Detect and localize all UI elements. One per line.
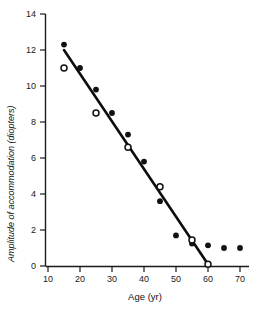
x-tick-labels: 10 20 30 40 50 60 70: [43, 274, 245, 284]
x-axis-title: Age (yr): [128, 291, 162, 302]
data-point-filled: [109, 110, 115, 116]
x-tick-label-10: 10: [43, 274, 53, 284]
x-tick-label-50: 50: [171, 274, 181, 284]
data-point-filled: [205, 242, 211, 248]
x-tick-label-30: 30: [107, 274, 117, 284]
data-point-filled: [77, 65, 83, 71]
y-tick-label-14: 14: [26, 9, 36, 19]
data-point-filled: [61, 42, 67, 48]
y-axis: 0 2 4 6 8 10 12 14: [26, 9, 46, 271]
y-tick-label-0: 0: [31, 261, 36, 271]
y-axis-title-group: Amplitude of accommodation (diopters): [6, 105, 16, 263]
accommodation-amplitude-chart: Amplitude of accommodation (diopters) 0 …: [0, 0, 261, 309]
y-tick-label-8: 8: [31, 117, 36, 127]
y-tick-label-10: 10: [26, 81, 36, 91]
y-tick-label-12: 12: [26, 45, 36, 55]
data-point-open: [125, 144, 131, 150]
x-tick-label-60: 60: [203, 274, 213, 284]
y-tick-label-4: 4: [31, 189, 36, 199]
y-tick-marks: [40, 14, 46, 266]
x-tick-marks: [48, 267, 240, 273]
y-axis-title: Amplitude of accommodation (diopters): [6, 105, 16, 263]
x-tick-label-70: 70: [235, 274, 245, 284]
data-point-filled: [237, 245, 243, 251]
plot-data-layer: [61, 42, 243, 268]
data-point-open: [61, 65, 67, 71]
data-point-filled: [173, 233, 179, 239]
data-point-filled: [125, 132, 131, 138]
y-tick-labels: 0 2 4 6 8 10 12 14: [26, 9, 36, 271]
y-tick-label-6: 6: [31, 153, 36, 163]
series-filled: [61, 42, 243, 251]
y-tick-label-2: 2: [31, 225, 36, 235]
x-axis: 10 20 30 40 50 60 70 Age (yr): [43, 267, 249, 303]
data-point-filled: [93, 87, 99, 93]
data-point-open: [157, 184, 163, 190]
x-tick-label-40: 40: [139, 274, 149, 284]
data-point-open: [205, 261, 211, 267]
data-point-filled: [221, 245, 227, 251]
data-point-filled: [157, 198, 163, 204]
data-point-filled: [141, 159, 147, 165]
data-point-open: [189, 237, 195, 243]
chart-svg: Amplitude of accommodation (diopters) 0 …: [0, 0, 261, 309]
x-tick-label-20: 20: [75, 274, 85, 284]
data-point-open: [93, 110, 99, 116]
regression-line: [64, 50, 208, 264]
